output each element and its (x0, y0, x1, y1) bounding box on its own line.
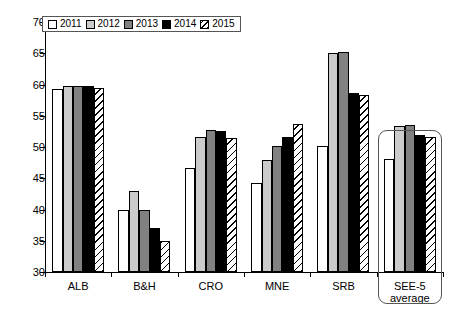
bar-group (310, 22, 376, 272)
y-axis-tick: 70 (0, 22, 45, 23)
bar-mne-2012 (262, 160, 272, 273)
bar-alb-2015 (94, 88, 104, 272)
legend-swatch-2013 (124, 20, 133, 29)
legend: 20112012201320142015 (42, 16, 241, 32)
legend-item-2014: 2014 (162, 19, 196, 29)
legend-item-2011: 2011 (48, 19, 82, 29)
y-axis-tick: 40 (0, 210, 45, 211)
x-axis-tick-mark (111, 272, 112, 277)
bar-chart: 706560555045403530 ALBB&HCROMNESRBSEE-5a… (0, 0, 450, 324)
bar-group (111, 22, 177, 272)
x-axis-category-label: B&H (111, 280, 177, 292)
bar-srb-2014 (349, 93, 359, 272)
bar-mne-2014 (282, 137, 292, 272)
y-axis-tick-label: 60 (11, 80, 45, 91)
bar-cro-2013 (206, 130, 216, 273)
plot-area (45, 22, 443, 272)
category-label-line1: CRO (199, 280, 223, 292)
category-label-line1: SEE-5 (394, 280, 426, 292)
bar-cro-2012 (195, 137, 205, 272)
y-axis-tick-label: 35 (11, 236, 45, 247)
bar-alb-2012 (63, 86, 73, 272)
bar-srb-2013 (338, 52, 348, 272)
category-label-line1: ALB (68, 280, 89, 292)
y-axis-tick-label: 45 (11, 173, 45, 184)
bar-group (377, 22, 443, 272)
bar-group (178, 22, 244, 272)
bar-srb-2012 (328, 53, 338, 272)
bar-b-h-2014 (150, 228, 160, 272)
x-axis-category-label: CRO (178, 280, 244, 292)
y-axis-tick: 30 (0, 272, 45, 273)
category-label-line1: MNE (265, 280, 289, 292)
legend-swatch-2011 (48, 20, 57, 29)
x-axis-tick-mark (377, 272, 378, 277)
bar-see-5-average-2013 (405, 125, 415, 273)
bar-see-5-average-2011 (384, 159, 394, 272)
y-axis-tick-label: 70 (11, 17, 45, 28)
legend-label-2011: 2011 (60, 19, 82, 29)
bar-b-h-2012 (129, 191, 139, 272)
bar-cro-2015 (226, 138, 236, 272)
bar-see-5-average-2012 (394, 126, 404, 272)
x-axis-tick-mark (45, 272, 46, 277)
legend-swatch-2015 (200, 20, 209, 29)
bar-mne-2015 (293, 124, 303, 272)
bar-b-h-2011 (118, 210, 128, 273)
bar-alb-2013 (73, 86, 83, 272)
bar-alb-2011 (52, 89, 62, 272)
y-axis-tick: 35 (0, 241, 45, 242)
x-axis-tick-mark (443, 272, 444, 277)
legend-item-2012: 2012 (86, 19, 120, 29)
bar-group (244, 22, 310, 272)
bar-cro-2011 (185, 168, 195, 272)
legend-label-2015: 2015 (212, 19, 234, 29)
bar-group (45, 22, 111, 272)
y-axis-tick: 60 (0, 85, 45, 86)
y-axis-tick: 65 (0, 53, 45, 54)
legend-label-2012: 2012 (98, 19, 120, 29)
y-axis-tick: 50 (0, 147, 45, 148)
legend-label-2013: 2013 (136, 19, 158, 29)
legend-item-2015: 2015 (200, 19, 234, 29)
y-axis-tick-label: 65 (11, 48, 45, 59)
y-axis-tick-label: 50 (11, 142, 45, 153)
bar-cro-2014 (216, 131, 226, 272)
y-axis-tick-label: 30 (11, 267, 45, 278)
legend-item-2013: 2013 (124, 19, 158, 29)
bar-srb-2011 (317, 146, 327, 272)
y-axis-tick-label: 40 (11, 205, 45, 216)
y-axis-tick: 55 (0, 116, 45, 117)
x-axis-tick-mark (178, 272, 179, 277)
x-axis-category-label: ALB (45, 280, 111, 292)
bar-see-5-average-2015 (425, 137, 435, 272)
bar-mne-2011 (251, 183, 261, 272)
bar-see-5-average-2014 (415, 135, 425, 272)
category-label-line1: B&H (133, 280, 156, 292)
x-axis-tick-mark (244, 272, 245, 277)
y-axis-tick-label: 55 (11, 111, 45, 122)
bar-alb-2014 (83, 86, 93, 272)
legend-label-2014: 2014 (174, 19, 196, 29)
bar-b-h-2015 (160, 241, 170, 272)
category-label-line2: average (377, 292, 443, 304)
x-axis-tick-mark (310, 272, 311, 277)
x-axis-category-label: SEE-5average (377, 280, 443, 304)
bar-srb-2015 (359, 95, 369, 272)
category-label-line1: SRB (332, 280, 355, 292)
bar-mne-2013 (272, 146, 282, 272)
x-axis-category-label: SRB (310, 280, 376, 292)
y-axis-tick: 45 (0, 178, 45, 179)
legend-swatch-2014 (162, 20, 171, 29)
x-axis-category-label: MNE (244, 280, 310, 292)
bar-b-h-2013 (139, 210, 149, 273)
legend-swatch-2012 (86, 20, 95, 29)
